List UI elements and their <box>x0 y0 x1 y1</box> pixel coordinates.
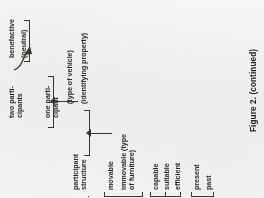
node-immovable: immovable (type of furniture) <box>120 134 137 190</box>
bracket-tick-movable <box>84 110 90 111</box>
baseline-bracket-movability <box>104 196 142 197</box>
curved-arrow-two-participants <box>0 46 40 82</box>
figure-caption: Figure 2. (continued) <box>250 49 258 132</box>
bracket-tick-immovable <box>84 155 90 156</box>
bracket-tick-benefactive <box>24 20 30 21</box>
figure-sheet: benefactive (neutral) two parti- cipants… <box>0 0 264 198</box>
node-suitable: suitable <box>163 163 171 190</box>
bracket-tick-two-participants <box>48 76 54 77</box>
node-movable: movable <box>107 161 115 190</box>
baseline-tick-participant-structure <box>88 196 89 197</box>
node-past: past <box>205 175 213 190</box>
arrow-head-movable <box>86 129 91 137</box>
arrow-shaft-movable <box>90 133 112 134</box>
baseline-end-immovable <box>142 192 143 197</box>
node-identifying-property: (identifying property) <box>80 33 88 104</box>
baseline-end-past <box>213 192 214 197</box>
node-participant-structure: participant structure <box>72 154 89 190</box>
baseline-bracket-tense-group <box>191 196 213 197</box>
bracket-tick-one-participant <box>48 127 54 128</box>
node-efficient: efficient <box>174 163 182 190</box>
baseline-end-present <box>191 192 192 197</box>
node-capable: capable <box>152 164 160 190</box>
baseline-end-capable <box>150 192 151 197</box>
baseline-end-movable <box>104 192 105 197</box>
baseline-end-efficient <box>180 192 181 197</box>
node-type-of-vehicle: (type of vehicle) <box>66 50 74 104</box>
arrow-head-participant-structure <box>50 97 55 105</box>
baseline-mid-suitable <box>165 192 166 197</box>
node-two-participants: two parti- cipants <box>8 86 25 118</box>
node-present: present <box>193 164 201 190</box>
